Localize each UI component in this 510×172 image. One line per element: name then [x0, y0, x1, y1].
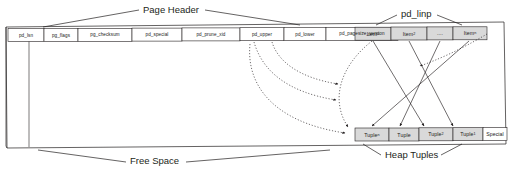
- diagram-canvas: [0, 0, 510, 172]
- annotation-heap-tuples: Heap Tuples: [385, 149, 438, 160]
- annotation-free-space: Free Space: [130, 155, 179, 166]
- annotation-page-header: Page Header: [143, 4, 199, 15]
- page-header-cells: [8, 27, 398, 41]
- item-pointer-cells: [355, 27, 487, 40]
- heap-page-layout-diagram: pd_lsn pg_flags pg_checksum pd_special p…: [0, 0, 510, 172]
- free-space-leader-lines: [38, 150, 330, 162]
- heap-tuple-cells: [355, 128, 507, 141]
- annotation-pd-linp: pd_linp: [401, 8, 432, 19]
